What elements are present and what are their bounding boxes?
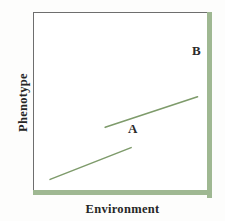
reaction-norm-figure: A B Phenotype Environment (0, 0, 225, 221)
plot-frame-top-border (33, 12, 212, 13)
y-axis-title: Phenotype (16, 48, 31, 158)
plot-frame-left-border (33, 12, 34, 194)
plot-area (33, 12, 211, 193)
line-b-label: B (192, 44, 201, 57)
line-a-label: A (128, 122, 138, 135)
x-axis-bottom-green-bar (33, 190, 212, 195)
y-axis-right-green-bar (207, 12, 212, 198)
x-axis-title: Environment (33, 202, 212, 217)
